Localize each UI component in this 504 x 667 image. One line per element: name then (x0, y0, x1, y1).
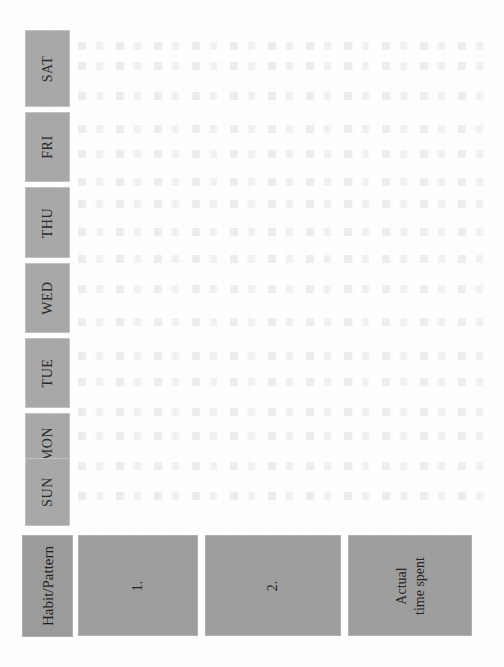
scan-ghost-line (78, 492, 496, 500)
habit-pattern-corner-header[interactable]: Habit/Pattern (22, 535, 73, 637)
entry-cell-label-line: 1. (129, 580, 147, 591)
entry-cell-2[interactable]: 2. (205, 535, 341, 636)
day-header-label: TUE (40, 358, 56, 387)
entry-cell-label-line: Actual (393, 557, 411, 615)
entry-cell-1[interactable]: 1. (78, 535, 198, 636)
day-header-label: WED (40, 281, 56, 315)
scan-ghost-line (78, 285, 496, 293)
scan-ghost-line (78, 150, 496, 158)
entry-cell-actual-time-spent[interactable]: Actual time spent (348, 535, 472, 636)
day-header-wed[interactable]: WED (25, 263, 70, 333)
scan-ghost-line (78, 62, 496, 70)
scan-ghost-line (78, 432, 496, 440)
habit-pattern-table: SAT FRI THU WED TUE MON SUN Habit/Patter… (0, 0, 504, 667)
day-header-label: MON (40, 427, 56, 461)
day-header-label: THU (40, 207, 56, 238)
scan-ghost-line (78, 408, 496, 416)
scan-ghost-line (78, 42, 496, 50)
scan-ghost-line (78, 378, 496, 386)
day-header-sat[interactable]: SAT (25, 30, 70, 107)
day-header-sun[interactable]: SUN (25, 458, 70, 526)
scan-ghost-line (78, 200, 496, 208)
day-header-tue[interactable]: TUE (25, 338, 70, 408)
scan-ghost-line (78, 228, 496, 236)
entry-cell-label: 2. (264, 580, 282, 591)
day-header-label: FRI (40, 135, 56, 159)
day-header-thu[interactable]: THU (25, 187, 70, 258)
day-header-fri[interactable]: FRI (25, 112, 70, 182)
habit-pattern-label: Habit/Pattern (39, 546, 56, 626)
entry-cell-label: 1. (129, 580, 147, 591)
scan-ghost-line (78, 92, 496, 100)
scan-ghost-line (78, 178, 496, 186)
scan-ghost-line (78, 318, 496, 326)
scan-ghost-line (78, 352, 496, 360)
scan-ghost-line (78, 125, 496, 133)
scan-ghost-line (78, 255, 496, 263)
entry-cell-label-line: 2. (264, 580, 282, 591)
entry-cell-label: Actual time spent (393, 557, 428, 615)
entry-cell-label-line: time spent (410, 557, 428, 615)
day-header-label: SAT (40, 55, 56, 82)
scan-ghost-line (78, 462, 496, 470)
day-header-label: SUN (40, 477, 56, 507)
